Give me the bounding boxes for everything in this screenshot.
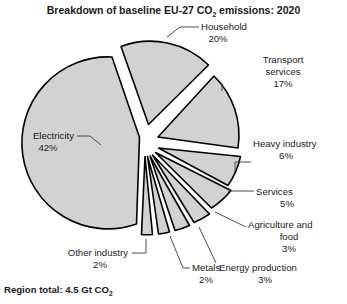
chart-title-main: Breakdown of baseline EU-27 CO: [47, 4, 213, 16]
chart-title: Breakdown of baseline EU-27 CO2 emission…: [47, 4, 301, 18]
label-services-name: Services: [256, 186, 293, 197]
label-energy-value: 3%: [258, 274, 272, 285]
label-services-value: 5%: [280, 198, 294, 209]
label-agriculture-value: 3%: [282, 243, 296, 254]
label-household-name: Household: [201, 21, 247, 32]
label-transport-name-1: Transport: [263, 54, 304, 65]
label-heavy-industry-name: Heavy industry: [253, 138, 317, 149]
label-electricity-value: 42%: [38, 142, 58, 153]
leader-other-industry: [132, 239, 146, 253]
label-energy-name: Energy production: [219, 262, 297, 273]
pie-chart-figure: Breakdown of baseline EU-27 CO2 emission…: [0, 0, 347, 304]
region-total-subscript: 2: [109, 290, 113, 297]
label-agriculture-name-1: Agriculture and: [248, 219, 313, 230]
leader-household: [167, 27, 199, 37]
region-total-main: Region total: 4.5 Gt CO: [4, 284, 110, 295]
label-other-industry-name: Other industry: [68, 247, 128, 258]
leader-agriculture: [215, 212, 246, 227]
label-agriculture-name-2: food: [280, 231, 299, 242]
label-heavy-industry-value: 6%: [279, 150, 293, 161]
chart-canvas: Breakdown of baseline EU-27 CO2 emission…: [0, 0, 347, 304]
leader-metals: [170, 236, 190, 268]
label-transport-name-2: services: [265, 66, 300, 77]
label-other-industry-value: 2%: [93, 259, 107, 270]
label-transport-value: 17%: [273, 78, 293, 89]
label-household-value: 20%: [208, 33, 228, 44]
chart-title-tail: emissions: 2020: [216, 4, 300, 16]
label-metals-name: Metals: [192, 262, 220, 273]
label-metals-value: 2%: [199, 274, 213, 285]
leader-energy: [199, 227, 216, 263]
label-electricity-name: Electricity: [33, 130, 74, 141]
region-total-footnote: Region total: 4.5 Gt CO2: [4, 284, 113, 297]
